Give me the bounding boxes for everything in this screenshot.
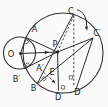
op-arrowhead-icon [45, 51, 49, 55]
segment-P-Dprime [58, 52, 59, 91]
label-A: A [32, 24, 38, 34]
rotation-arrowhead-icon [85, 26, 88, 30]
label-C: C [68, 6, 74, 16]
label-B-prime: B′ [13, 74, 21, 84]
label-A-prime: A′ [36, 63, 44, 73]
label-D-prime: D′ [55, 92, 63, 102]
rotation-arrow [77, 10, 88, 31]
label-O: O [8, 49, 14, 59]
label-E: E [49, 67, 54, 77]
label-C-prime: C′ [93, 28, 101, 38]
segment-B-Cprime [37, 38, 93, 84]
rotation-arrow-curve [77, 10, 87, 28]
segment-O-P [21, 52, 58, 54]
geometry-diagram: O P A A′ B B′ C C′ D D′ E [0, 0, 108, 107]
label-B: B [31, 83, 37, 93]
dashed-arrowhead-icon [52, 79, 56, 83]
point-O-dot [19, 52, 22, 55]
label-D: D [74, 87, 80, 97]
right-angle-mark-near-Dprime [61, 85, 65, 89]
segment-B-C [37, 14, 74, 84]
figure-canvas: O P A A′ B B′ C C′ D D′ E [0, 0, 108, 107]
right-angle-mark-near-D [69, 76, 72, 79]
label-P: P [53, 39, 58, 49]
point-P-dot [56, 50, 59, 53]
right-angle-marks [24, 40, 72, 90]
